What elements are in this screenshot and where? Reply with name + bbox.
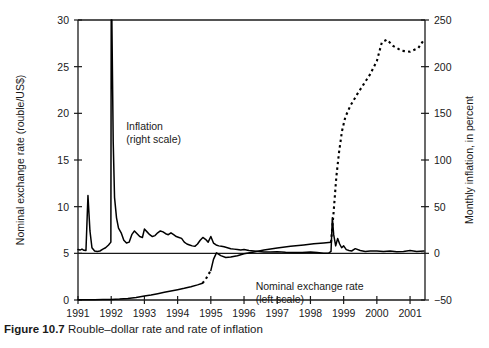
y-tick-label: 5 <box>63 247 69 259</box>
y2-tick-label: 100 <box>434 154 452 166</box>
annotations-group: Nominal exchange rate(left scale)Inflati… <box>126 120 364 305</box>
x-tick-label: 1999 <box>332 307 356 318</box>
annotation-inflation: (right scale) <box>126 133 181 145</box>
y-tick-label: 10 <box>57 201 69 213</box>
y-tick-label: 25 <box>57 61 69 73</box>
x-tick-label: 2001 <box>398 307 422 318</box>
axes-group: 051015202530250200150100500−501991199219… <box>14 14 475 318</box>
x-tick-label: 1995 <box>199 307 223 318</box>
y2-tick-label: 50 <box>434 201 446 213</box>
x-tick-label: 1994 <box>166 307 190 318</box>
y2-tick-label: 200 <box>434 61 452 73</box>
y-tick-label: 30 <box>57 14 69 26</box>
series-group <box>78 20 424 300</box>
y2-tick-label: 250 <box>434 14 452 26</box>
figure-container: 051015202530250200150100500−501991199219… <box>0 0 489 348</box>
x-tick-label: 1998 <box>299 307 323 318</box>
y-tick-label: 20 <box>57 107 69 119</box>
caption-number: Figure 10.7 <box>4 323 65 335</box>
x-tick-label: 1993 <box>133 307 157 318</box>
series-line <box>78 283 203 300</box>
x-tick-label: 2000 <box>365 307 389 318</box>
chart-svg: 051015202530250200150100500−501991199219… <box>0 0 489 318</box>
series-line <box>211 242 331 270</box>
figure-caption: Figure 10.7 Rouble–dollar rate and rate … <box>4 322 485 337</box>
caption-text: Rouble–dollar rate and rate of inflation <box>68 323 263 335</box>
series-line <box>331 40 424 243</box>
chart-plot-area: 051015202530250200150100500−501991199219… <box>0 0 489 318</box>
annotation-nominal-exchange-rate: Nominal exchange rate <box>256 280 364 292</box>
y2-tick-label: 0 <box>434 247 440 259</box>
x-tick-label: 1997 <box>266 307 290 318</box>
x-tick-label: 1996 <box>232 307 256 318</box>
annotation-nominal-exchange-rate: (left scale) <box>256 293 304 305</box>
x-tick-label: 1991 <box>66 307 90 318</box>
x-tick-label: 1992 <box>100 307 124 318</box>
y-tick-label: 15 <box>57 154 69 166</box>
y-tick-label: 0 <box>63 294 69 306</box>
y2-tick-label: −50 <box>434 294 452 306</box>
y2-axis-title: Monthly inflation, in percent <box>463 96 475 224</box>
y-axis-title: Nominal exchange rate (rouble/US$) <box>14 75 26 245</box>
annotation-inflation: Inflation <box>126 120 163 132</box>
y2-tick-label: 150 <box>434 107 452 119</box>
series-line <box>203 271 211 284</box>
